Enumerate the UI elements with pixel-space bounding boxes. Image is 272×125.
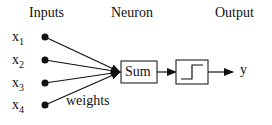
input-node-1 xyxy=(42,34,49,41)
input-label-1: x1 xyxy=(12,30,24,47)
input-node-4 xyxy=(42,102,49,109)
input-label-2: x2 xyxy=(12,53,24,70)
sum-label: Sum xyxy=(125,65,151,79)
neuron-header: Neuron xyxy=(111,6,153,20)
weight-line-1 xyxy=(45,37,120,72)
input-node-2 xyxy=(42,57,49,64)
inputs-header: Inputs xyxy=(29,6,64,20)
input-label-3: x3 xyxy=(12,76,24,93)
input-nodes xyxy=(42,34,49,109)
output-label: y xyxy=(240,63,247,77)
weights-label: weights xyxy=(66,94,110,108)
output-header: Output xyxy=(215,6,254,20)
weight-line-2 xyxy=(45,60,120,72)
input-node-3 xyxy=(42,80,49,87)
input-label-4: x4 xyxy=(12,98,24,115)
